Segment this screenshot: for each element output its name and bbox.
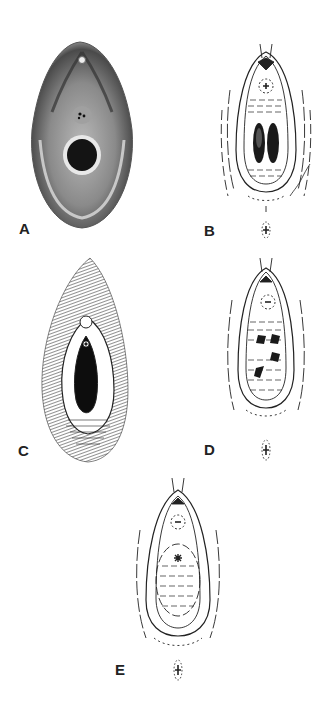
panel-label-a: A [19, 221, 30, 236]
panel-d: D [164, 240, 328, 480]
panel-e-illustration [80, 470, 244, 718]
panel-e: E [80, 470, 244, 718]
panel-label-e: E [115, 662, 125, 677]
panel-b: B [164, 0, 328, 240]
panel-label-b: B [204, 223, 215, 238]
panel-d-illustration [164, 240, 328, 480]
panel-a: A [0, 0, 164, 240]
panel-b-illustration [164, 0, 328, 240]
panel-label-d: D [204, 442, 215, 457]
panel-label-c: C [18, 443, 29, 458]
panel-c: C [0, 240, 164, 480]
panel-a-illustration [0, 0, 164, 240]
